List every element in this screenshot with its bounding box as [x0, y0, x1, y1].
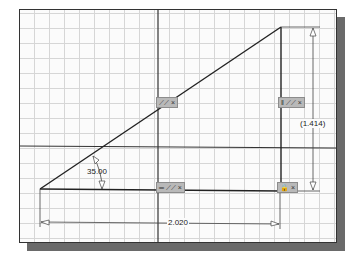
- vertical-edge-constraint-glyph[interactable]: ‖ ⟋⟋ ×: [278, 97, 305, 108]
- x-axis: [19, 146, 336, 148]
- vertical-reference-dimension[interactable]: (1.414): [300, 119, 325, 128]
- hypotenuse-line: [40, 27, 281, 189]
- hypotenuse-constraint-glyph[interactable]: ⟋⟋ ×: [156, 97, 178, 108]
- horizontal-dimension-line: [41, 222, 279, 224]
- fix-constraint-glyph[interactable]: 🔒 ×: [277, 182, 298, 193]
- horizontal-dimension[interactable]: 2.020: [167, 218, 189, 227]
- angle-dimension[interactable]: 35.00: [87, 167, 107, 176]
- horizontal-edge-constraint-glyph[interactable]: ═ ⟋⟋ ×: [156, 182, 185, 193]
